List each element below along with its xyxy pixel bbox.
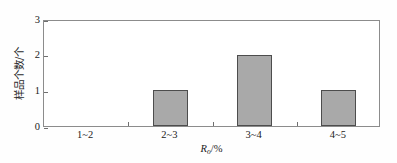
x-axis-tick xyxy=(297,122,298,126)
y-axis-tick-labels: 0123 xyxy=(26,0,40,163)
x-axis-tick-label: 2~3 xyxy=(161,129,177,141)
bar xyxy=(237,55,272,126)
plot-area xyxy=(43,20,380,127)
x-axis-tick xyxy=(128,122,129,126)
plot-inner xyxy=(44,21,379,126)
y-axis-tick-label: 2 xyxy=(28,50,40,61)
y-axis-tick xyxy=(44,92,48,93)
x-axis-tick-labels: 1~22~33~44~5 xyxy=(43,129,380,143)
x-axis-tick-label: 4~5 xyxy=(330,129,346,141)
bar-chart-figure: 样品个数/个 0123 1~22~33~44~5 Ro/% xyxy=(0,0,397,163)
x-axis-tick xyxy=(213,122,214,126)
x-axis-title-unit: /% xyxy=(211,143,223,154)
x-axis-tick-label: 3~4 xyxy=(246,129,262,141)
bar xyxy=(321,90,356,126)
y-axis-tick-label: 3 xyxy=(28,15,40,26)
y-axis-title-text: 样品个数/个 xyxy=(12,47,27,101)
x-axis-title: Ro/% xyxy=(43,143,380,156)
y-axis-tick-label: 0 xyxy=(28,122,40,133)
y-axis-tick xyxy=(44,56,48,57)
x-axis-tick-label: 1~2 xyxy=(77,129,93,141)
y-axis-tick-label: 1 xyxy=(28,86,40,97)
bar xyxy=(153,90,188,126)
y-axis-tick xyxy=(44,21,48,22)
